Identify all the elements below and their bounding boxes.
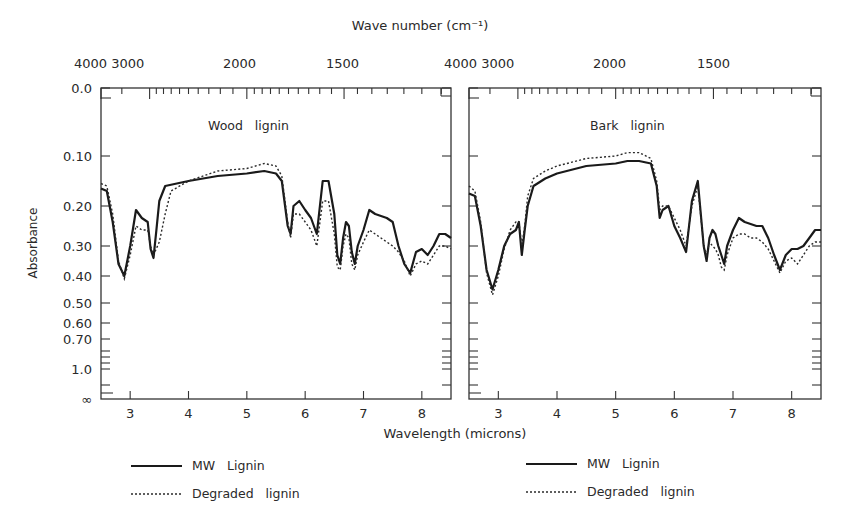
y-axis-label: Absorbance [26, 208, 40, 279]
y-tick-label: 0.50 [63, 296, 92, 311]
top-axis-ticks-left: 4000 3000 2000 1500 [74, 56, 359, 71]
panel-title-wood: Wood lignin [208, 118, 289, 133]
top-axis-ticks-right: 4000 3000 2000 1500 [444, 56, 730, 71]
x-tick-label: 5 [612, 406, 620, 421]
y-axis-tick-labels: 0.00.100.200.300.400.500.600.701.0∞ [63, 81, 92, 407]
x-tick-label: 6 [670, 406, 678, 421]
legend-label: MW Lignin [192, 458, 265, 473]
top-tick-label: 2000 [593, 56, 626, 71]
x-tick-label: 7 [729, 406, 737, 421]
panel-wood-lignin: 345678 [101, 88, 451, 421]
x-tick-label: 8 [418, 406, 426, 421]
top-axis-label: Wave number (cm⁻¹) [352, 18, 489, 33]
panel-bark-lignin: 345678 [469, 88, 821, 421]
y-tick-label: 1.0 [71, 362, 92, 377]
top-tick-label: 2000 [223, 56, 256, 71]
x-tick-label: 3 [494, 406, 502, 421]
y-tick-label: 0.60 [63, 316, 92, 331]
y-tick-label: 0.0 [71, 81, 92, 96]
y-tick-label: 0.20 [63, 199, 92, 214]
y-tick-label: 0.10 [63, 149, 92, 164]
y-tick-label: 0.30 [63, 239, 92, 254]
x-tick-label: 8 [788, 406, 796, 421]
series-degraded-lignin [469, 153, 821, 295]
y-tick-label: ∞ [81, 392, 92, 407]
x-tick-label: 4 [184, 406, 192, 421]
y-tick-label: 0.70 [63, 332, 92, 347]
legend-label: Degraded lignin [192, 486, 300, 501]
top-tick-label: 4000 3000 [444, 56, 514, 71]
top-tick-label: 4000 3000 [74, 56, 144, 71]
legend-label: Degraded lignin [587, 484, 695, 499]
x-tick-label: 5 [243, 406, 251, 421]
panel-title-bark: Bark lignin [590, 118, 665, 133]
series-degraded-lignin [101, 164, 451, 279]
ir-spectra-figure: Wave number (cm⁻¹) 4000 3000 2000 1500 4… [0, 0, 841, 519]
x-tick-label: 7 [359, 406, 367, 421]
top-tick-label: 1500 [697, 56, 730, 71]
x-tick-label: 3 [126, 406, 134, 421]
x-tick-label: 4 [553, 406, 561, 421]
legend-label: MW Lignin [587, 456, 660, 471]
series-mw-lignin [469, 161, 821, 290]
x-axis-label: Wavelength (microns) [384, 426, 527, 441]
legend-left: MW Lignin Degraded lignin [131, 458, 300, 501]
series-mw-lignin [101, 171, 451, 276]
y-tick-label: 0.40 [63, 269, 92, 284]
legend-right: MW Lignin Degraded lignin [526, 456, 695, 499]
x-tick-label: 6 [301, 406, 309, 421]
top-tick-label: 1500 [326, 56, 359, 71]
